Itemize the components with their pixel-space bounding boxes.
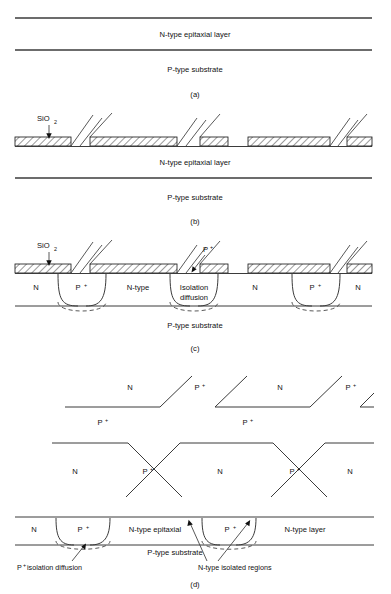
panel-d-top-label: N (277, 383, 282, 392)
well-edge (320, 274, 340, 306)
panel-b-tag: (b) (190, 217, 200, 226)
panel-b-oxide-subscript: 2 (54, 119, 57, 125)
panel-d-callout-rest: isolation diffusion (27, 563, 82, 572)
oxide-segment (90, 137, 177, 146)
oxide-segment (248, 137, 330, 146)
panel-c: SiO 2 P + N P + (15, 240, 372, 353)
top-edge-slant (360, 393, 374, 407)
oxide-segment (90, 264, 177, 273)
panel-c-region-label: P (309, 283, 314, 292)
panel-c-region-sup: + (318, 282, 321, 288)
panel-d-edge-label: P (224, 525, 229, 534)
panel-c-pplus-label: P (203, 245, 208, 254)
panel-d-callout-sup: + (23, 562, 26, 568)
panel-d-top-label: P (194, 383, 199, 392)
panel-b-substrate-label: P-type substrate (167, 193, 222, 202)
top-edge-slant (310, 376, 342, 407)
panel-d-front-sup: + (150, 466, 153, 472)
panel-d-top-sup: + (105, 417, 108, 423)
panel-d-tag: (d) (190, 580, 200, 589)
panel-d-top-label: P (242, 418, 247, 427)
panel-c-region-sup: + (84, 282, 87, 288)
panel-d-substrate-label: P-type substrate (147, 548, 202, 557)
panel-c-substrate-label: P-type substrate (167, 321, 222, 330)
panel-d-top-sup: + (353, 382, 356, 388)
panel-d-isolated-regions-callout: N-type isolated regions (187, 520, 272, 572)
top-edge-slant (160, 376, 192, 407)
panel-c-oxide-label: SiO (37, 241, 50, 250)
panel-b-oxide-callout: SiO 2 (37, 114, 57, 139)
panel-c-oxide-subscript: 2 (54, 246, 57, 252)
panel-d-top-sup: + (202, 382, 205, 388)
panel-d: N P + N P + P + P + N P + N P + N (15, 376, 374, 589)
oxide-segment (248, 264, 330, 273)
panel-d-edge-sup: + (233, 524, 236, 530)
panel-b-epitaxial-label: N-type epitaxial layer (160, 158, 231, 167)
panel-d-edge-sup: + (86, 524, 89, 530)
oxide-segment (200, 264, 228, 273)
panel-d-front-label: P (142, 467, 147, 476)
well-edge (236, 518, 256, 545)
mid-edge-slant (128, 443, 182, 497)
panel-d-front-sup: + (297, 466, 300, 472)
panel-d-mid-edges (52, 443, 374, 497)
panel-d-callout-label: N-type isolated regions (198, 563, 272, 572)
top-edge-slant (215, 376, 247, 407)
oxide-segment (347, 137, 372, 146)
panel-d-top-label: P (345, 383, 350, 392)
panel-d-front-label: N (347, 467, 352, 476)
isolated-region-arrow-icon (187, 520, 192, 526)
oxide-segment (347, 264, 372, 273)
panel-d-edge-label: P (77, 525, 82, 534)
panel-b-oxide-label: SiO (37, 114, 50, 123)
panel-b-oxide-segments (15, 137, 372, 146)
panel-a-substrate-label: P-type substrate (167, 65, 222, 74)
panel-d-callout-label: P (17, 563, 22, 572)
well-edge (86, 274, 106, 306)
panel-d-front-label: P (289, 467, 294, 476)
panel-c-region-label: N-type (127, 283, 149, 292)
panel-d-edge-label: N-type layer (285, 525, 326, 534)
panel-d-front-label: N (217, 467, 222, 476)
well-edge (202, 518, 220, 545)
panel-a-epitaxial-label: N-type epitaxial layer (160, 30, 231, 39)
panel-d-top-edges (65, 376, 374, 407)
panel-d-edge-label: N-type epitaxial (129, 525, 182, 534)
panel-b: SiO 2 N-type epitaxial layer P-type subs… (15, 113, 372, 226)
well-edge (56, 518, 74, 545)
panel-c-region-label-2: diffusion (180, 293, 208, 302)
panel-d-front-label: N (72, 467, 77, 476)
oxide-segment (15, 137, 71, 146)
process-figure: N-type epitaxial layer P-type substrate … (0, 0, 391, 594)
panel-d-top-label: N (127, 383, 132, 392)
panel-c-tag: (c) (191, 344, 200, 353)
panel-c-oxide-callout: SiO 2 (37, 241, 57, 266)
panel-c-pplus-sup: + (210, 244, 213, 250)
oxide-segment (15, 264, 71, 273)
panel-c-region-label: P (75, 283, 80, 292)
panel-c-region-label: N (355, 283, 360, 292)
panel-c-region-label: N (252, 283, 257, 292)
panel-d-edge-label: N (31, 525, 36, 534)
panel-a-tag: (a) (190, 90, 200, 99)
well-edge (90, 518, 110, 545)
panel-d-top-label: P (97, 418, 102, 427)
oxide-segment (200, 137, 228, 146)
panel-d-isolation-callout: P + isolation diffusion (17, 544, 86, 573)
panel-c-region-label: Isolation (180, 283, 208, 292)
panel-a: N-type epitaxial layer P-type substrate … (15, 18, 372, 99)
panel-d-top-sup: + (250, 417, 253, 423)
panel-c-region-label: N (33, 283, 38, 292)
